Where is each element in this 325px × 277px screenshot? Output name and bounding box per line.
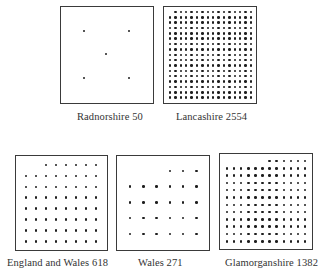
glamorganshire-label: Glamorganshire 1382 [225, 257, 318, 268]
dot-marker [268, 196, 271, 199]
dot-marker [254, 196, 257, 199]
dot-marker [261, 240, 264, 243]
dot-marker [55, 240, 58, 243]
dot-marker [234, 96, 237, 99]
dot-marker [223, 91, 226, 94]
dot-marker [201, 96, 204, 99]
dot-marker [180, 64, 183, 67]
dot-marker [45, 240, 48, 243]
dot-marker [169, 80, 172, 83]
lancashire-label: Lancashire 2554 [176, 111, 247, 122]
dot-marker [207, 91, 210, 94]
dot-marker [244, 16, 247, 19]
dot-marker [25, 240, 28, 243]
dot-marker [201, 54, 204, 57]
dot-marker [275, 182, 278, 185]
dot-marker [250, 16, 253, 19]
dot-marker [283, 218, 286, 221]
dot-marker [223, 16, 226, 19]
dot-marker [228, 21, 231, 24]
dot-marker [244, 32, 247, 35]
dot-marker [180, 96, 183, 99]
dot-marker [201, 86, 204, 89]
dot-marker [190, 91, 193, 94]
dot-marker [261, 182, 264, 185]
dot-marker [190, 80, 193, 83]
dot-marker [169, 185, 172, 188]
dot-marker [244, 86, 247, 89]
dot-marker [201, 70, 204, 73]
dot-marker [95, 240, 98, 243]
dot-marker [247, 225, 250, 228]
dot-marker [207, 96, 210, 99]
dot-marker [217, 54, 220, 57]
dot-marker [180, 80, 183, 83]
dot-marker [290, 167, 293, 170]
dot-marker [228, 91, 231, 94]
dot-marker [35, 240, 38, 243]
dot-marker [275, 225, 278, 228]
dot-marker [244, 80, 247, 83]
dot-marker [174, 48, 177, 51]
dot-marker [217, 48, 220, 51]
dot-marker [290, 174, 293, 177]
dot-marker [283, 174, 286, 177]
dot-marker [290, 240, 293, 243]
dot-marker [261, 218, 264, 221]
dot-marker [283, 225, 286, 228]
dot-marker [174, 86, 177, 89]
dot-marker [190, 96, 193, 99]
dot-marker [190, 32, 193, 35]
dot-marker [247, 182, 250, 185]
dot-marker [180, 91, 183, 94]
dot-marker [234, 64, 237, 67]
dot-marker [217, 91, 220, 94]
dot-marker [142, 201, 145, 204]
dot-marker [244, 48, 247, 51]
dot-marker [254, 167, 257, 170]
dot-marker [190, 37, 193, 40]
dot-marker [247, 167, 250, 170]
dot-marker [174, 37, 177, 40]
dot-marker [180, 16, 183, 19]
england-wales-label: England and Wales 618 [7, 257, 108, 268]
dot-marker [196, 91, 199, 94]
dot-marker [234, 37, 237, 40]
dot-marker [228, 96, 231, 99]
dot-marker [190, 21, 193, 24]
dot-marker [180, 37, 183, 40]
dot-marker [169, 91, 172, 94]
dot-marker [142, 185, 145, 188]
dot-marker [174, 64, 177, 67]
dot-marker [217, 32, 220, 35]
dot-marker [228, 86, 231, 89]
dot-marker [268, 182, 271, 185]
england-wales-square [15, 155, 108, 251]
dot-marker [261, 196, 264, 199]
dot-marker [174, 32, 177, 35]
dot-marker [207, 48, 210, 51]
dot-marker [228, 16, 231, 19]
dot-marker [254, 182, 257, 185]
dot-marker [174, 91, 177, 94]
dot-marker [65, 240, 68, 243]
dot-marker [283, 196, 286, 199]
dot-marker [290, 218, 293, 221]
dot-marker [174, 54, 177, 57]
dot-marker [190, 54, 193, 57]
dot-marker [155, 185, 158, 188]
dot-marker [228, 80, 231, 83]
dot-marker [201, 37, 204, 40]
dot-marker [169, 16, 172, 19]
dot-marker [196, 16, 199, 19]
dot-marker [228, 37, 231, 40]
dot-marker [234, 91, 237, 94]
dot-marker [207, 80, 210, 83]
dot-marker [234, 48, 237, 51]
dot-marker [283, 167, 286, 170]
dot-marker [226, 167, 229, 170]
dot-marker [247, 240, 250, 243]
dot-marker [217, 86, 220, 89]
dot-marker [142, 233, 145, 236]
dot-marker [234, 21, 237, 24]
